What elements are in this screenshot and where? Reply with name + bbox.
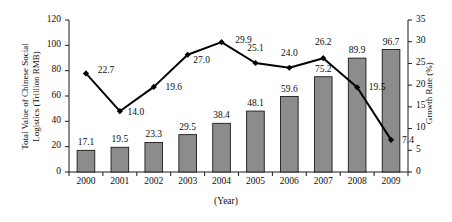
bar <box>247 111 265 172</box>
bar <box>348 58 366 172</box>
y-axis-right-tick-label: 10 <box>416 122 442 132</box>
y-axis-left-tick-label: 0 <box>35 166 61 176</box>
bar-value-label: 29.5 <box>168 122 208 132</box>
line-value-label: 22.7 <box>86 65 126 75</box>
line-value-label: 14.0 <box>116 107 156 117</box>
x-axis-tick-label: 2009 <box>371 176 411 186</box>
growth-rate-line <box>86 42 391 140</box>
line-value-label: 27.0 <box>182 55 222 65</box>
y-axis-left-tick-label: 20 <box>35 140 61 150</box>
bar-value-label: 75.2 <box>303 64 343 74</box>
line-value-label: 7.4 <box>388 135 428 145</box>
line-value-label: 19.5 <box>357 82 397 92</box>
bar-value-label: 59.6 <box>269 84 309 94</box>
bar-value-label: 38.4 <box>202 110 242 120</box>
y-axis-right-tick-label: 30 <box>416 35 442 45</box>
bar-value-label: 96.7 <box>371 37 411 47</box>
bar <box>111 147 129 172</box>
bar <box>213 123 231 172</box>
bar <box>314 77 332 172</box>
y-axis-right-tick-label: 0 <box>416 166 442 176</box>
y-axis-left-tick-label: 80 <box>35 64 61 74</box>
line-value-label: 24.0 <box>269 48 309 58</box>
line-marker <box>286 65 292 71</box>
y-axis-right-tick-label: 25 <box>416 57 442 67</box>
y-axis-right-tick-label: 35 <box>416 14 442 24</box>
line-value-label: 26.2 <box>303 37 343 47</box>
y-axis-right-tick-label: 20 <box>416 79 442 89</box>
y-axis-left-tick-label: 100 <box>35 39 61 49</box>
bar <box>77 150 95 172</box>
bar-value-label: 48.1 <box>235 98 275 108</box>
y-axis-left-tick-label: 120 <box>35 14 61 24</box>
line-value-label: 19.6 <box>154 82 194 92</box>
y-axis-right-tick-label: 5 <box>416 144 442 154</box>
bar <box>382 50 400 172</box>
y-axis-right-tick-label: 15 <box>416 100 442 110</box>
bar <box>179 135 197 172</box>
y-axis-left-tick-label: 60 <box>35 90 61 100</box>
bar <box>281 97 299 172</box>
bar <box>145 142 163 172</box>
chart-figure: Total Value of Chinese Social Logistics … <box>0 0 452 222</box>
y-axis-left-tick-label: 40 <box>35 115 61 125</box>
